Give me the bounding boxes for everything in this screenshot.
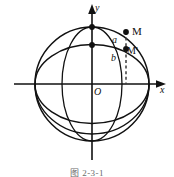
segment-label-a: a [112,34,117,45]
point-label-M-prime: M' [127,45,138,56]
segment-label-b: b [111,52,116,63]
origin-label: O [94,86,101,97]
figure-caption: 图 2-3-1 [0,166,174,177]
geometry-figure: y x O M M' a b 图 2-3-1 [0,0,174,177]
sphere-ellipse-diagram [0,0,174,177]
x-axis-label: x [160,84,164,95]
point-ellipse-top [89,42,95,48]
point-M [123,29,129,35]
point-label-M: M [132,26,142,37]
point-circle-top [89,24,95,30]
y-axis-label: y [95,2,99,13]
